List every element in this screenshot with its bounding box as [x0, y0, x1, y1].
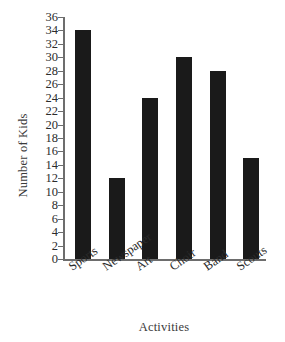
y-axis-tick	[58, 219, 63, 220]
plot-area	[63, 17, 265, 259]
y-axis-tick-label: 8	[28, 199, 58, 212]
x-axis-title: Activities	[63, 320, 265, 335]
y-axis-tick	[58, 17, 63, 18]
bar	[75, 30, 91, 259]
bars-layer	[63, 17, 265, 259]
y-axis-tick	[58, 259, 63, 260]
bar	[176, 57, 192, 259]
y-axis-tick	[58, 84, 63, 85]
y-axis-tick	[58, 138, 63, 139]
y-axis-tick	[58, 178, 63, 179]
x-axis-category-labels: SportsNewspaperArtChoirBandScouts	[63, 262, 273, 314]
y-axis-tick-label: 0	[28, 253, 58, 266]
y-axis-tick-label: 12	[28, 172, 58, 185]
y-axis-tick	[58, 151, 63, 152]
y-axis-tick	[58, 205, 63, 206]
y-axis-tick	[58, 246, 63, 247]
y-axis-tick-labels: 024681012141618202224262830323436	[25, 17, 58, 260]
bar-chart: Number of Kids 0246810121416182022242628…	[0, 0, 285, 342]
y-axis-tick-label: 34	[28, 24, 58, 37]
y-axis-tick-label: 22	[28, 105, 58, 118]
y-axis-tick-label: 6	[28, 213, 58, 226]
bar	[243, 158, 259, 259]
y-axis-tick-label: 20	[28, 119, 58, 132]
y-axis-tick-label: 2	[28, 240, 58, 253]
y-axis-tick	[58, 111, 63, 112]
y-axis-tick	[58, 44, 63, 45]
y-axis-tick-label: 14	[28, 159, 58, 172]
y-axis-tick-label: 10	[28, 186, 58, 199]
y-axis-tick	[58, 71, 63, 72]
y-axis-tick	[58, 30, 63, 31]
y-axis-tick-label: 36	[28, 11, 58, 24]
y-axis-tick	[58, 165, 63, 166]
y-axis-tick	[58, 125, 63, 126]
y-axis-tick-label: 18	[28, 132, 58, 145]
y-axis-tick-label: 16	[28, 145, 58, 158]
y-axis-tick	[58, 232, 63, 233]
y-axis-tick	[58, 192, 63, 193]
bar	[210, 71, 226, 259]
y-axis-tick-label: 26	[28, 78, 58, 91]
y-axis-tick-label: 24	[28, 92, 58, 105]
y-axis-tick-label: 28	[28, 65, 58, 78]
y-axis-tick-label: 4	[28, 226, 58, 239]
y-axis-tick-label: 30	[28, 51, 58, 64]
y-axis-tick	[58, 57, 63, 58]
y-axis-tick-label: 32	[28, 38, 58, 51]
y-axis-tick	[58, 98, 63, 99]
